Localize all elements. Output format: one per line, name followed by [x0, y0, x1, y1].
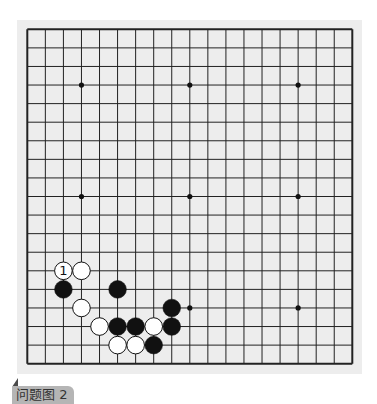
black-stone[interactable] [55, 281, 73, 299]
black-stone[interactable] [109, 318, 127, 336]
star-point [296, 305, 301, 310]
star-point [187, 194, 192, 199]
black-stone[interactable] [163, 318, 181, 336]
star-point [79, 82, 84, 87]
white-stone[interactable] [73, 262, 91, 280]
star-point [79, 194, 84, 199]
white-stone[interactable] [127, 336, 145, 354]
black-stone[interactable] [109, 281, 127, 299]
white-stone[interactable] [73, 299, 91, 317]
star-point [187, 82, 192, 87]
move-number-label: 1 [59, 263, 67, 278]
white-stone[interactable] [145, 318, 163, 336]
white-stone[interactable] [109, 336, 127, 354]
star-point [296, 194, 301, 199]
white-stone[interactable] [91, 318, 109, 336]
star-point [187, 305, 192, 310]
star-point [296, 82, 301, 87]
black-stone[interactable] [145, 336, 163, 354]
black-stone[interactable] [127, 318, 145, 336]
figure-caption: 问题图 2 [12, 386, 74, 404]
black-stone[interactable] [163, 299, 181, 317]
white-stone[interactable]: 1 [55, 262, 73, 280]
